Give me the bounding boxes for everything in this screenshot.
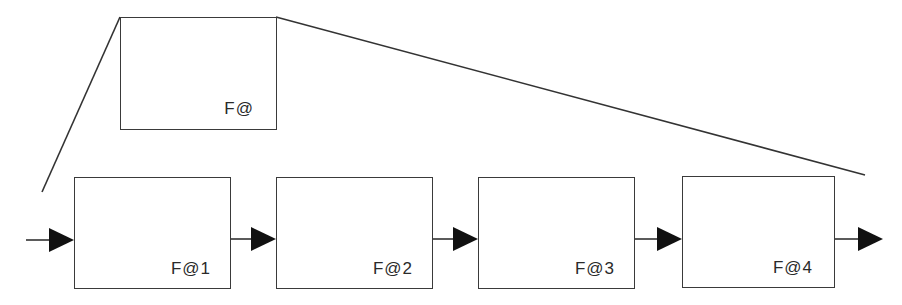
- expansion-line-1: [42, 17, 120, 192]
- arrowhead-icon: [49, 228, 74, 252]
- arrowhead-icon: [657, 227, 682, 251]
- template-block-label: F@: [224, 100, 254, 117]
- template-block: F@: [120, 17, 277, 130]
- arrow-2: [230, 227, 276, 251]
- block-2: F@2: [276, 177, 433, 289]
- expansion-line-2: [276, 17, 865, 175]
- block-1: F@1: [74, 177, 231, 289]
- arrowhead-icon: [251, 227, 276, 251]
- arrow-5: [834, 227, 883, 251]
- unrolled-block-diagram: F@ F@1 F@2 F@3 F@4: [0, 0, 902, 305]
- block-4: F@4: [682, 176, 835, 288]
- block-4-label: F@4: [773, 259, 813, 276]
- block-1-label: F@1: [171, 260, 211, 277]
- arrowhead-icon: [858, 227, 883, 251]
- arrowhead-icon: [453, 227, 478, 251]
- block-3: F@3: [478, 177, 635, 289]
- block-3-label: F@3: [575, 260, 615, 277]
- block-2-label: F@2: [373, 260, 413, 277]
- arrow-3: [432, 227, 478, 251]
- arrow-4: [634, 227, 682, 251]
- arrow-1: [26, 228, 74, 252]
